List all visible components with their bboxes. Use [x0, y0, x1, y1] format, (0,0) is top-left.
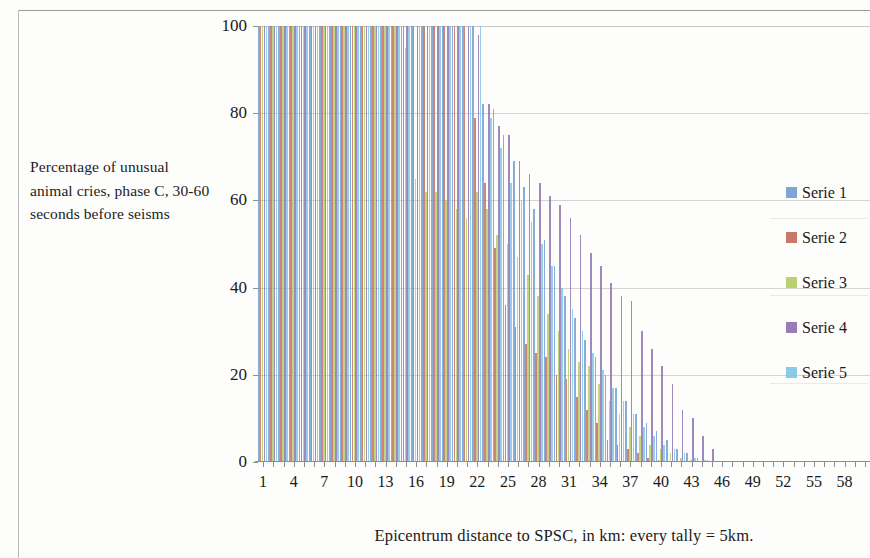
- x-tick-label: 46: [714, 473, 730, 491]
- y-tick-label: 40: [230, 278, 247, 298]
- bar: [663, 445, 665, 462]
- bar-group: [370, 26, 380, 462]
- bar-group: [646, 26, 656, 462]
- page-border-top: [18, 10, 870, 11]
- x-tick-mark: [396, 462, 397, 467]
- x-tick-mark: [498, 462, 499, 467]
- x-axis-tick-marks: [258, 462, 870, 469]
- bar-group: [289, 26, 299, 462]
- bar-group: [309, 26, 319, 462]
- y-tick-label: 60: [230, 190, 247, 210]
- bar: [490, 118, 492, 462]
- bar: [541, 244, 543, 462]
- bar: [480, 26, 482, 462]
- x-tick-mark: [783, 462, 784, 467]
- x-tick-mark: [488, 462, 489, 467]
- y-axis-label: Percentage of unusual animal cries, phas…: [30, 155, 215, 226]
- x-tick-mark: [661, 462, 662, 467]
- legend-label: Serie 4: [802, 319, 847, 337]
- bar: [388, 26, 390, 462]
- x-tick-mark: [671, 462, 672, 467]
- x-tick-mark: [528, 462, 529, 467]
- bar-group: [340, 26, 350, 462]
- x-tick-mark: [416, 462, 417, 467]
- x-axis-tick-labels: 1471013161922252831343740434649525558: [258, 473, 870, 497]
- bar-group: [595, 26, 605, 462]
- bar-group: [462, 26, 472, 462]
- bar: [646, 423, 648, 462]
- x-tick-label: 13: [378, 473, 394, 491]
- x-tick-label: 25: [500, 473, 516, 491]
- legend-label: Serie 2: [802, 229, 847, 247]
- bar-group: [717, 26, 727, 462]
- bar: [327, 26, 329, 462]
- bar-series-container: [258, 26, 870, 462]
- bar: [286, 26, 288, 462]
- x-tick-mark: [722, 462, 723, 467]
- legend-item: Serie 4: [786, 305, 868, 350]
- bar: [317, 26, 319, 462]
- x-tick-mark: [457, 462, 458, 467]
- bar-group: [574, 26, 584, 462]
- bar-group: [401, 26, 411, 462]
- bar-group: [350, 26, 360, 462]
- bar: [459, 26, 461, 462]
- x-tick-mark: [692, 462, 693, 467]
- bar-group: [635, 26, 645, 462]
- x-tick-mark: [406, 462, 407, 467]
- bar: [398, 26, 400, 462]
- x-tick-mark: [467, 462, 468, 467]
- bar: [561, 288, 563, 462]
- bar: [612, 388, 614, 462]
- bar-group: [360, 26, 370, 462]
- legend-swatch-icon: [786, 367, 797, 378]
- x-tick-mark: [284, 462, 285, 467]
- x-tick-label: 52: [775, 473, 791, 491]
- x-tick-mark: [743, 462, 744, 467]
- x-tick-mark: [590, 462, 591, 467]
- chart-legend: Serie 1Serie 2Serie 3Serie 4Serie 5: [786, 170, 868, 395]
- x-tick-mark: [518, 462, 519, 467]
- y-tick-label: 0: [239, 452, 248, 472]
- bar: [378, 26, 380, 462]
- bar: [408, 26, 410, 462]
- legend-label: Serie 3: [802, 274, 847, 292]
- bar-group: [533, 26, 543, 462]
- x-tick-mark: [804, 462, 805, 467]
- bar: [439, 26, 441, 462]
- x-tick-mark: [620, 462, 621, 467]
- x-tick-mark: [824, 462, 825, 467]
- bar-group: [482, 26, 492, 462]
- bar: [429, 26, 431, 462]
- bar-group: [686, 26, 696, 462]
- x-tick-label: 43: [684, 473, 700, 491]
- x-tick-mark: [845, 462, 846, 467]
- bar-group: [727, 26, 737, 462]
- bar: [368, 26, 370, 462]
- bar-group: [431, 26, 441, 462]
- x-tick-mark: [437, 462, 438, 467]
- scanned-page: Percentage of unusual animal cries, phas…: [0, 0, 870, 558]
- bar-group: [656, 26, 666, 462]
- x-tick-mark: [549, 462, 550, 467]
- bar-group: [411, 26, 421, 462]
- x-tick-label: 28: [531, 473, 547, 491]
- x-tick-label: 58: [837, 473, 853, 491]
- x-tick-label: 22: [469, 473, 485, 491]
- x-tick-mark: [365, 462, 366, 467]
- bar-group: [737, 26, 747, 462]
- x-tick-mark: [375, 462, 376, 467]
- legend-swatch-icon: [786, 187, 797, 198]
- bar-group: [697, 26, 707, 462]
- bar-group: [605, 26, 615, 462]
- bar-group: [299, 26, 309, 462]
- x-tick-mark: [355, 462, 356, 467]
- bar: [357, 26, 359, 462]
- bar: [500, 148, 502, 462]
- y-tick-label: 80: [230, 103, 247, 123]
- bar-group: [493, 26, 503, 462]
- bar: [623, 401, 625, 462]
- x-tick-mark: [294, 462, 295, 467]
- bar: [572, 309, 574, 462]
- x-tick-label: 10: [347, 473, 363, 491]
